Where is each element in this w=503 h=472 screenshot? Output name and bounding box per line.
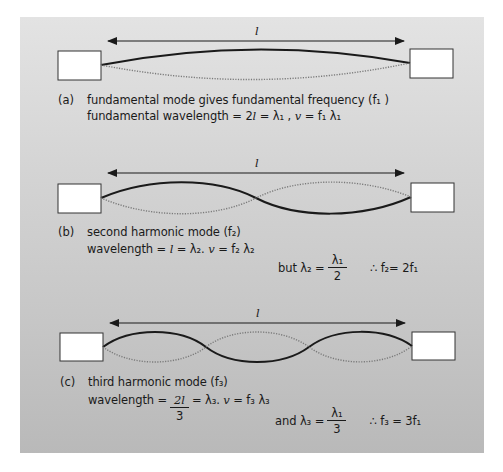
fraction: λ₁2 [328,253,347,284]
fraction: 2l3 [170,393,189,424]
string-dotted [101,182,411,214]
relation-lead: and λ₃ = [275,414,324,428]
right-support [412,332,455,360]
panel-c-graphic [60,323,455,362]
numerator: λ₁ [328,253,347,268]
string-solid [101,49,410,65]
string-dotted [101,63,410,80]
panel-b-tag: (b) [58,225,74,239]
panel-b-relation: but λ₂ =λ₁2∴ f₂= 2f₁ [278,253,418,284]
panel-a-wavelength: fundamental wavelength = 2l = λ₁ , v = f… [87,109,341,123]
left-support [60,333,103,361]
numerator: λ₁ [327,406,346,421]
denominator: 3 [170,408,189,424]
length-label-b: l [255,156,259,170]
fraction: λ₁3 [327,406,346,437]
text: wavelength = [87,242,170,256]
denominator: 2 [328,268,347,284]
panel-c-tag: (c) [60,375,75,389]
length-label-a: l [255,24,259,38]
panel-c-wavelength: wavelength =2l3= λ₃. v = f₃ λ₃ [88,393,270,424]
text: fundamental wavelength = 2 [87,109,253,123]
right-support [410,49,453,78]
text: = λ₂. [173,242,208,256]
panel-c-relation: and λ₃ =λ₁3∴ f₃ = 3f₁ [275,406,421,437]
panel-b-wavelength: wavelength = l = λ₂. v = f₂ λ₂ [87,242,255,256]
length-label-c: l [256,306,260,320]
panel-a-title: fundamental mode gives fundamental frequ… [87,93,389,107]
string-solid [103,332,412,362]
string-dotted [103,332,412,362]
relation-result: ∴ f₂= 2f₁ [370,261,418,275]
text: = f₁ λ₁ [301,109,341,123]
text: = λ₁ , [256,109,295,123]
panel-a-tag: (a) [58,93,74,107]
text: wavelength = [88,393,167,407]
panel-c-title: third harmonic mode (f₃) [88,375,228,389]
left-support [58,51,101,80]
panel-b-graphic [58,173,454,214]
panel-a-graphic [58,41,453,80]
text: = f₃ λ₃ [230,393,270,407]
numerator: 2l [170,393,189,408]
denominator: 3 [327,421,346,437]
text: = λ₃. [192,393,223,407]
relation-lead: but λ₂ = [278,261,325,275]
left-support [58,184,101,213]
panel-b-title: second harmonic mode (f₂) [87,225,241,239]
relation-result: ∴ f₃ = 3f₁ [369,414,421,428]
text: = f₂ λ₂ [215,242,255,256]
right-support [411,183,454,212]
